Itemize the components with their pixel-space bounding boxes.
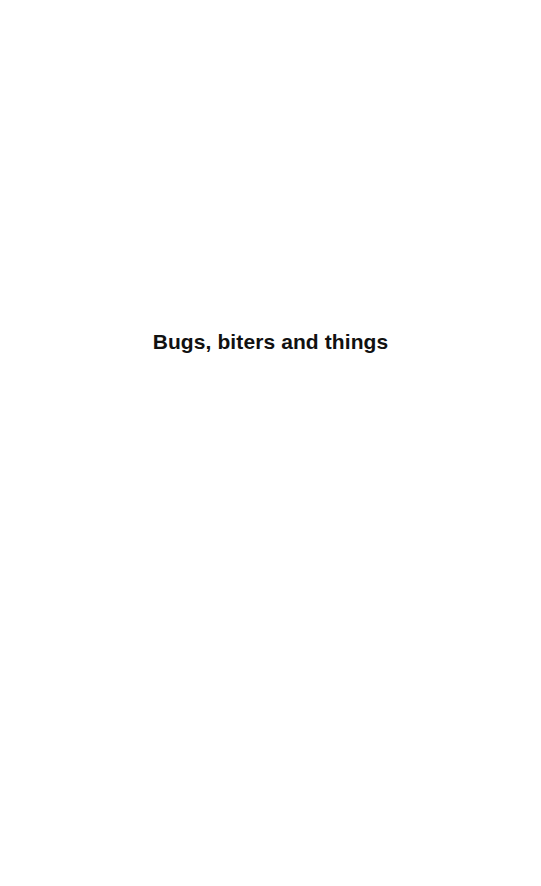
half-title-heading: Bugs, biters and things — [0, 329, 541, 355]
book-page: Bugs, biters and things — [0, 0, 541, 886]
